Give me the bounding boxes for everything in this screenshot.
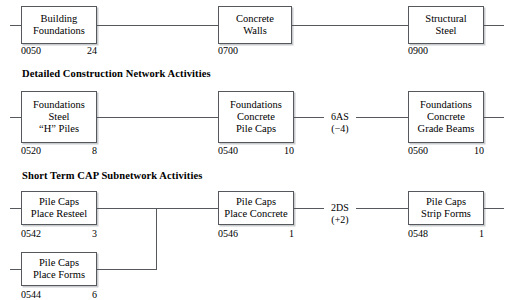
node-label-line: “H” Piles: [39, 123, 79, 135]
activity-node-foundations-steel-h-piles[interactable]: Foundations Steel “H” Piles: [21, 91, 97, 143]
node-label-line: Strip Forms: [421, 208, 471, 220]
node-label-line: Pile Caps: [236, 123, 276, 135]
activity-node-pile-caps-strip-forms[interactable]: Pile Caps Strip Forms: [408, 191, 484, 225]
node-label-line: Place Resteel: [31, 208, 87, 220]
node-duration-0560: 10: [444, 145, 484, 156]
node-label-line: Steel: [49, 111, 70, 123]
node-label-line: Pile Caps: [236, 196, 276, 208]
node-duration-0540: 10: [254, 145, 294, 156]
connector-resteel-out: [97, 208, 157, 209]
node-label-line: Place Forms: [33, 269, 85, 281]
node-duration-0544: 6: [57, 289, 97, 300]
connector-merge-to-concrete: [156, 208, 218, 209]
connector-right-exit-middle: [484, 117, 504, 118]
node-label-line: Concrete: [236, 13, 274, 25]
connector-right-exit-top: [484, 25, 504, 26]
node-label-line: Concrete: [237, 111, 275, 123]
link-value: (−4): [324, 123, 356, 135]
node-label-line: Pile Caps: [39, 196, 79, 208]
connector-merge-vertical: [156, 208, 157, 269]
link-code: 6AS: [324, 111, 356, 123]
connector-concrete-to-strip-right: [356, 208, 408, 209]
connector-pilecaps-to-gradebeams-left: [294, 117, 324, 118]
link-value: (+2): [324, 214, 356, 226]
node-label-line: Concrete: [427, 111, 465, 123]
node-id-0050: 0050: [21, 45, 41, 56]
activity-node-pile-caps-place-concrete[interactable]: Pile Caps Place Concrete: [218, 191, 294, 225]
connector-forms-out: [97, 269, 157, 270]
activity-node-pile-caps-place-resteel[interactable]: Pile Caps Place Resteel: [21, 191, 97, 225]
node-label-line: Foundations: [420, 99, 472, 111]
node-id-0546: 0546: [218, 228, 238, 239]
connector-bf-to-cw: [97, 25, 218, 26]
activity-node-concrete-walls[interactable]: Concrete Walls: [218, 6, 292, 44]
node-label-line: Steel: [436, 25, 457, 37]
node-label-line: Pile Caps: [426, 196, 466, 208]
node-label-line: Building: [41, 13, 78, 25]
connector-concrete-to-strip-left: [294, 208, 324, 209]
node-duration-0542: 3: [57, 228, 97, 239]
node-id-0900: 0900: [408, 45, 428, 56]
node-duration-0050: 24: [57, 45, 97, 56]
node-id-0560: 0560: [408, 145, 428, 156]
link-code: 2DS: [324, 202, 356, 214]
node-label-line: Grade Beams: [418, 123, 475, 135]
node-duration-0546: 1: [254, 228, 294, 239]
activity-node-structural-steel[interactable]: Structural Steel: [408, 6, 484, 44]
link-label-2ds: 2DS (+2): [324, 202, 356, 225]
link-label-6as: 6AS (−4): [324, 111, 356, 134]
connector-hpiles-to-pilecaps: [97, 117, 218, 118]
node-label-line: Foundations: [33, 25, 85, 37]
connector-cw-to-ss: [292, 25, 408, 26]
node-id-0548: 0548: [408, 228, 428, 239]
activity-node-building-foundations[interactable]: Building Foundations: [21, 6, 97, 44]
node-duration-0520: 8: [57, 145, 97, 156]
node-label-line: Foundations: [33, 99, 85, 111]
node-duration-0548: 1: [444, 228, 484, 239]
node-id-0544: 0544: [21, 289, 41, 300]
node-id-0542: 0542: [21, 228, 41, 239]
activity-node-pile-caps-place-forms[interactable]: Pile Caps Place Forms: [21, 252, 97, 286]
node-id-0540: 0540: [218, 145, 238, 156]
node-id-0700: 0700: [218, 45, 238, 56]
node-id-0520: 0520: [21, 145, 41, 156]
network-diagram-page: Building Foundations 0050 24 Concrete Wa…: [0, 0, 506, 300]
node-label-line: Pile Caps: [39, 257, 79, 269]
node-label-line: Walls: [243, 25, 267, 37]
node-label-line: Structural: [425, 13, 466, 25]
activity-node-foundations-concrete-grade-beams[interactable]: Foundations Concrete Grade Beams: [408, 91, 484, 143]
activity-node-foundations-concrete-pile-caps[interactable]: Foundations Concrete Pile Caps: [218, 91, 294, 143]
section-header-detailed-construction: Detailed Construction Network Activities: [22, 68, 211, 79]
connector-right-exit-bottom: [484, 208, 504, 209]
node-label-line: Foundations: [230, 99, 282, 111]
connector-pilecaps-to-gradebeams-right: [356, 117, 408, 118]
node-label-line: Place Concrete: [224, 208, 287, 220]
section-header-short-term-cap: Short Term CAP Subnetwork Activities: [22, 170, 202, 181]
